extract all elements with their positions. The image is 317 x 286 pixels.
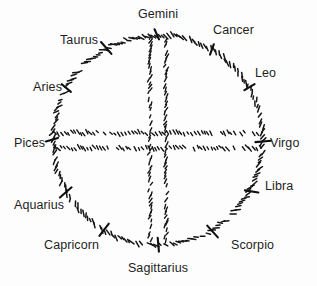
sign-label-aquarius: Aquarius — [14, 199, 64, 212]
sign-label-sagittarius: Sagittarius — [128, 262, 188, 275]
sign-label-pices: Pices — [14, 137, 45, 150]
circle-hatch-strokes — [49, 32, 265, 247]
sign-boundary-marks — [46, 29, 271, 251]
sign-label-leo: Leo — [255, 67, 276, 80]
sign-label-taurus: Taurus — [60, 34, 98, 47]
sign-label-scorpio: Scorpio — [231, 239, 274, 252]
sign-label-cancer: Cancer — [213, 24, 254, 37]
sign-label-virgo: Virgo — [270, 137, 299, 150]
sign-label-capricorn: Capricorn — [44, 239, 99, 252]
zodiac-wheel-diagram: Gemini Cancer Leo Virgo Libra Scorpio Sa… — [0, 0, 317, 286]
sign-label-aries: Aries — [33, 81, 62, 94]
sign-label-libra: Libra — [265, 180, 293, 193]
sign-label-gemini: Gemini — [138, 8, 178, 21]
